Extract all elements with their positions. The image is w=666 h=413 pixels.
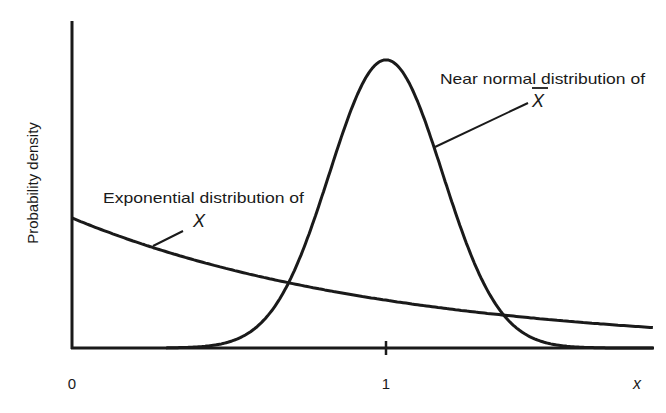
chart: Probability density 0 1 x Exponential di… bbox=[0, 0, 666, 413]
normal-annotation: Near normal distribution of bbox=[440, 70, 646, 87]
x-tick-label-0: 0 bbox=[68, 375, 76, 392]
exp-leader-line bbox=[153, 231, 183, 246]
normal-leader-line bbox=[435, 103, 528, 147]
exp-annotation: Exponential distribution of bbox=[103, 189, 305, 206]
y-axis-label: Probability density bbox=[24, 122, 41, 244]
x-tick-label-1: 1 bbox=[382, 375, 390, 392]
exponential-curve bbox=[72, 218, 653, 328]
x-axis-label: x bbox=[632, 375, 642, 392]
normal-symbol: X bbox=[531, 91, 545, 111]
exp-symbol: X bbox=[192, 211, 206, 231]
